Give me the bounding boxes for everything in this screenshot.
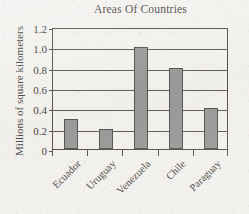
y-tick-label: 0 [42,145,48,157]
plot-area: 00.20.40.60.81.01.2 [52,28,228,150]
y-axis-title: Millions of square kilometers [13,21,25,161]
x-tick-label: Venezuela [114,158,152,196]
bar [64,119,78,150]
y-tick-label: 0.2 [33,125,47,137]
chart-title: Areas Of Countries [52,3,229,15]
bar [134,47,148,149]
y-tick-label: 0.6 [33,84,47,96]
x-tick-label: Chile [164,158,188,182]
x-tick-label: Uruguay [84,158,118,192]
bar [169,68,183,149]
y-tick-label: 0.8 [33,64,47,76]
y-tick-label: 1.0 [33,43,47,55]
x-axis-labels: EcuadorUruguayVenezuelaChileParaguay [52,150,228,214]
bar-chart-figure: Areas Of Countries Millions of square ki… [0,0,249,214]
x-tick-label: Paraguay [188,158,223,193]
bar [99,129,113,149]
bar [204,108,218,149]
bars-group [53,29,227,149]
x-tick-label: Ecuador [50,158,83,191]
y-tick-label: 0.4 [33,104,47,116]
y-tick-label: 1.2 [33,23,47,35]
